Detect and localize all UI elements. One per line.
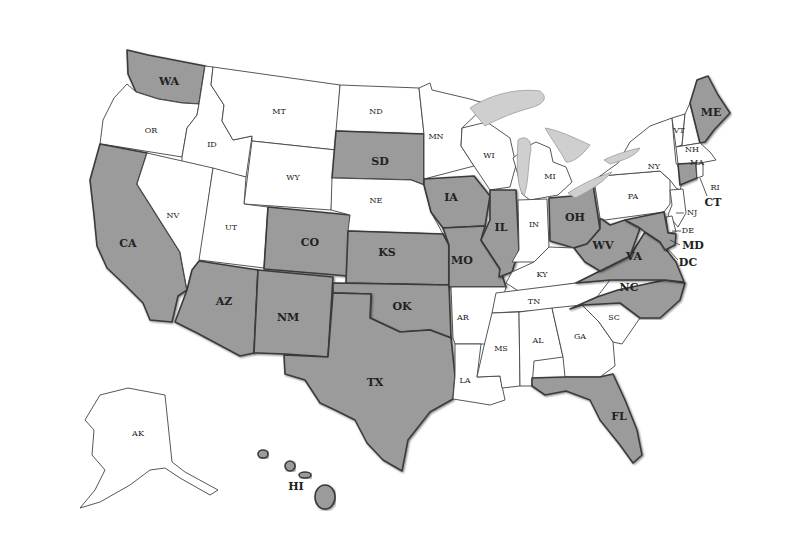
label-TN: TN: [528, 297, 540, 306]
label-WA: WA: [158, 75, 180, 88]
label-IL: IL: [495, 221, 508, 234]
label-MT: MT: [272, 107, 286, 116]
label-WI: WI: [483, 151, 494, 160]
label-OH: OH: [565, 211, 585, 224]
label-SC: SC: [608, 313, 620, 322]
label-KY: KY: [536, 270, 548, 279]
label-MD: MD: [682, 239, 704, 252]
label-CT: CT: [705, 196, 723, 209]
label-GA: GA: [574, 332, 586, 341]
label-LA: LA: [459, 376, 470, 385]
label-MO: MO: [451, 254, 473, 267]
label-AK: AK: [131, 429, 145, 438]
label-OK: OK: [392, 300, 412, 313]
label-PA: PA: [628, 192, 639, 201]
us-states-map: WA OR CA ID NV MT WY UT AZ CO NM ND SD N…: [0, 0, 792, 550]
label-FL: FL: [611, 410, 627, 423]
label-ND: ND: [369, 107, 382, 116]
label-CO: CO: [301, 236, 320, 249]
label-NJ: NJ: [687, 208, 697, 217]
label-DE: DE: [682, 226, 694, 235]
states-layer: [80, 50, 730, 509]
state-AK[interactable]: [80, 388, 218, 508]
label-WY: WY: [286, 173, 300, 182]
label-SD: SD: [371, 155, 389, 168]
label-ME: ME: [701, 106, 722, 119]
label-AL: AL: [531, 336, 544, 345]
label-OR: OR: [145, 126, 159, 135]
label-IN: IN: [529, 220, 539, 229]
label-ID: ID: [207, 140, 217, 149]
label-VT: VT: [672, 126, 685, 135]
label-NC: NC: [620, 281, 639, 294]
label-NH: NH: [685, 145, 699, 154]
label-VA: VA: [625, 250, 643, 263]
label-AR: AR: [456, 313, 470, 322]
label-IA: IA: [444, 191, 458, 204]
label-MI: MI: [544, 172, 555, 181]
label-TX: TX: [367, 376, 384, 389]
lake-superior: [470, 90, 544, 126]
label-HI: HI: [288, 480, 304, 493]
label-RI: RI: [710, 183, 719, 192]
label-MA: MA: [690, 158, 704, 167]
label-WV: WV: [592, 239, 614, 252]
label-MS: MS: [494, 344, 508, 353]
label-MN: MN: [428, 132, 443, 141]
label-NV: NV: [167, 211, 180, 220]
state-KS[interactable]: [346, 231, 449, 285]
label-CA: CA: [119, 237, 137, 250]
label-NY: NY: [648, 162, 661, 171]
label-AZ: AZ: [215, 295, 233, 308]
label-UT: UT: [225, 223, 238, 232]
label-DC: DC: [679, 256, 698, 269]
label-KS: KS: [378, 246, 396, 259]
label-NE: NE: [370, 196, 383, 205]
label-NM: NM: [277, 311, 299, 324]
